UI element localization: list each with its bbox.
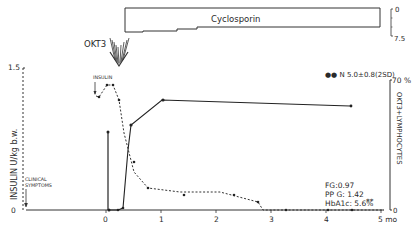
x-tick-2: 2	[214, 215, 219, 224]
left-axis-zero-tick: 0	[11, 206, 16, 215]
right-axis-title: OKT3+LYMPHOCYTES	[395, 92, 403, 164]
x-tick-0: 0	[103, 215, 108, 224]
x-tick-4: 4	[324, 215, 329, 224]
arrow-down-icon	[25, 203, 28, 207]
insulin-marker-label: INSULIN	[93, 75, 113, 80]
left-axis-title: INSULIN U/kg b.w.	[10, 129, 19, 200]
normal-reference-label: ●● N 5.0±0.8(2SD)	[325, 71, 395, 79]
cyclosporin-scale-top: 0	[395, 6, 399, 14]
ppg-value: PP G: 1.42	[325, 190, 364, 199]
hba1c-significance: **	[366, 197, 374, 206]
chart-canvas: Cyclosporin 0 7.5 OKT3 ●● N 5.0±0.8(2SD)…	[0, 0, 420, 228]
x-tick-3: 3	[269, 215, 274, 224]
left-y-axis: 1.5 0 INSULIN U/kg b.w.	[8, 63, 25, 215]
x-tick-5: 5 mo	[378, 215, 397, 224]
x-tick-1: 1	[159, 215, 164, 224]
clinical-symptoms-marker: CLINICAL SYMPTOMS	[25, 177, 52, 207]
left-axis-top-tick: 1.5	[8, 63, 20, 72]
right-y-axis: 70 % 0 OKT3+LYMPHOCYTES	[390, 76, 411, 215]
right-axis-top-tick: 70 %	[392, 76, 411, 85]
cyclosporin-scale-bottom: 7.5	[394, 35, 405, 43]
final-values-annotation: FG:0.97 PP G: 1.42 HbA1c: 5.6% **	[325, 181, 374, 208]
okt3-label: OKT3	[84, 39, 106, 49]
x-axis: 0 1 2 3 4 5 mo	[26, 210, 397, 224]
fg-value: FG:0.97	[325, 181, 355, 190]
clinical-label-1: CLINICAL	[25, 177, 47, 182]
arrow-down-icon	[94, 91, 97, 95]
right-axis-zero-tick: 0	[393, 207, 397, 215]
cyclosporin-scale: 0 7.5	[391, 6, 405, 43]
cyclosporin-label: Cyclosporin	[211, 14, 260, 24]
cyclosporin-dosing-band: Cyclosporin	[125, 8, 380, 32]
clinical-label-2: SYMPTOMS	[25, 183, 52, 188]
okt3-arrow-cluster: OKT3	[84, 38, 129, 66]
